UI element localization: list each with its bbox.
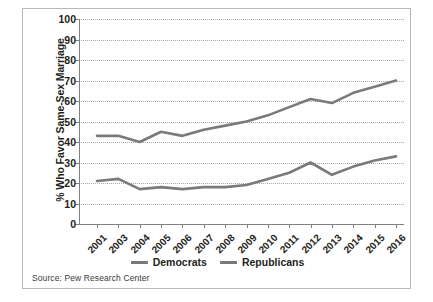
chart-legend: DemocratsRepublicans [23, 256, 412, 268]
x-tick [268, 224, 269, 228]
y-tick-label: 40 [36, 137, 76, 148]
x-tick [140, 224, 141, 228]
legend-item-democrats[interactable]: Democrats [131, 256, 207, 268]
y-tick-label: 0 [36, 219, 76, 230]
x-tick [161, 224, 162, 228]
y-tick-label: 50 [36, 117, 76, 128]
x-tick [225, 224, 226, 228]
series-layer [79, 19, 404, 224]
y-tick-label: 80 [36, 55, 76, 66]
y-tick-label: 30 [36, 158, 76, 169]
legend-item-republicans[interactable]: Republicans [220, 256, 304, 268]
x-axis-line [79, 224, 404, 225]
x-tick [332, 224, 333, 228]
legend-swatch-icon [220, 261, 237, 264]
y-tick-label: 60 [36, 96, 76, 107]
x-tick [311, 224, 312, 228]
chart-figure: % Who Favor Same-Sex Marriage 0102030405… [22, 8, 411, 289]
x-tick [375, 224, 376, 228]
x-tick [118, 224, 119, 228]
y-tick-label: 10 [36, 199, 76, 210]
x-tick [396, 224, 397, 228]
x-tick [182, 224, 183, 228]
legend-label: Republicans [242, 256, 304, 268]
legend-swatch-icon [131, 261, 148, 264]
x-tick [247, 224, 248, 228]
legend-label: Democrats [153, 256, 207, 268]
series-line-democrats [97, 81, 396, 143]
x-tick [97, 224, 98, 228]
plot-area: 0102030405060708090100200120032004200520… [79, 19, 404, 224]
y-tick-label: 20 [36, 178, 76, 189]
x-tick [353, 224, 354, 228]
y-tick-label: 70 [36, 76, 76, 87]
y-tick-label: 100 [36, 14, 76, 25]
series-line-republicans [97, 156, 396, 189]
source-note: Source: Pew Research Center [32, 273, 150, 283]
x-tick [204, 224, 205, 228]
x-tick [289, 224, 290, 228]
y-tick-label: 90 [36, 35, 76, 46]
